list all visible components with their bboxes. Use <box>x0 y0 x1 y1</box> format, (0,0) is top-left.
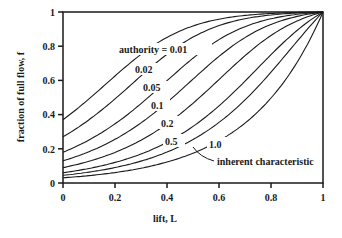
y-tick-0.2: 0.2 <box>43 144 56 155</box>
label-0.02: 0.02 <box>135 64 153 75</box>
label-1.0: 1.0 <box>209 139 222 150</box>
y-axis-title: fraction of full flow, f <box>15 51 26 142</box>
label-inherent-characteristic: inherent characteristic <box>217 156 314 167</box>
x-tick-0.2: 0.2 <box>109 192 122 203</box>
curve-0.5 <box>63 12 323 173</box>
x-axis-title: lift, L <box>153 213 177 224</box>
curve-0.2 <box>63 12 323 168</box>
curve-0.1 <box>63 12 323 161</box>
y-tick-0.4: 0.4 <box>43 109 56 120</box>
label-0.1: 0.1 <box>151 100 164 111</box>
x-tick-0.6: 0.6 <box>213 192 226 203</box>
label-0.5: 0.5 <box>165 136 178 147</box>
x-tick-0.8: 0.8 <box>265 192 278 203</box>
y-tick-0: 0 <box>50 178 55 189</box>
curves <box>63 12 323 178</box>
y-tick-0.8: 0.8 <box>43 41 56 52</box>
chart: 0 0.2 0.4 0.6 0.8 1 0 0.2 0.4 0.6 0.8 1 … <box>0 0 342 238</box>
y-tick-0.6: 0.6 <box>43 75 56 86</box>
curve-0.02 <box>63 12 323 137</box>
label-0.2: 0.2 <box>161 118 174 129</box>
label-0.05: 0.05 <box>143 82 161 93</box>
x-tick-1: 1 <box>321 192 326 203</box>
x-tick-0: 0 <box>61 192 66 203</box>
label-authority-0.01: authority = 0.01 <box>119 44 187 55</box>
x-tick-0.4: 0.4 <box>161 192 174 203</box>
y-tick-1: 1 <box>50 7 55 18</box>
